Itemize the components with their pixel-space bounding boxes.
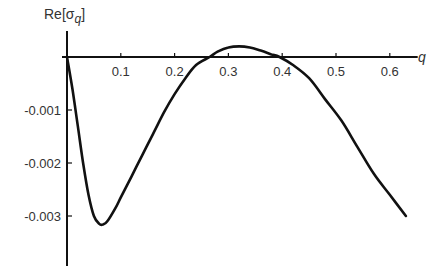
x-tick-label: 0.5: [327, 64, 345, 79]
y-tick-label: -0.002: [24, 156, 61, 171]
x-axis-title: q: [418, 49, 426, 65]
y-tick-label: -0.003: [24, 209, 61, 224]
x-tick-label: 0.4: [273, 64, 291, 79]
y-axis-title: Re[σq]: [44, 6, 85, 26]
y-tick-label: -0.001: [24, 103, 61, 118]
x-tick-label: 0.6: [381, 64, 399, 79]
x-tick-label: 0.1: [112, 64, 130, 79]
line-chart: 0.10.20.30.40.50.6-0.001-0.002-0.003 Re[…: [0, 0, 441, 279]
x-tick-label: 0.2: [166, 64, 184, 79]
x-tick-label: 0.3: [219, 64, 237, 79]
